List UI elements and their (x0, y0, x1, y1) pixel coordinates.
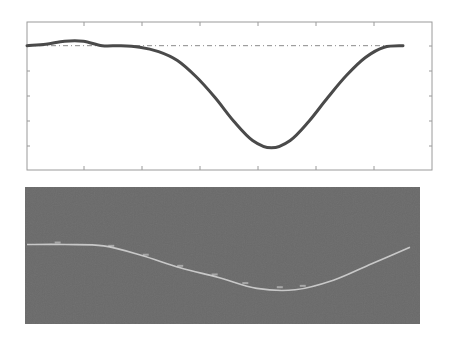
curve-marker (277, 286, 283, 288)
curve-marker (212, 273, 218, 275)
top-plot-canvas (0, 0, 458, 180)
axes-frame (27, 22, 432, 170)
top-line-plot (0, 0, 458, 180)
bottom-plot-canvas (0, 180, 458, 346)
signal-curve (27, 41, 403, 148)
curve-marker (55, 242, 61, 244)
image-noise (25, 187, 420, 324)
curve-marker (108, 245, 114, 247)
curve-marker (143, 254, 149, 256)
curve-marker (300, 285, 306, 287)
bottom-image-plot (0, 180, 458, 346)
curve-marker (177, 265, 183, 267)
curve-marker (242, 282, 248, 284)
